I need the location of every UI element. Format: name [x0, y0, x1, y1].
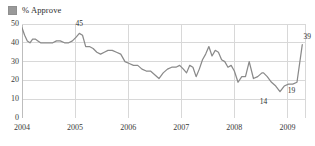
x-tick-2008: 2008	[226, 124, 242, 132]
series-swatch-icon	[8, 6, 17, 15]
y-tick-40: 40	[11, 39, 19, 47]
approval-rating-chart: % Approve 01020304050 200420052006200720…	[0, 0, 315, 146]
point-label-14: 14	[260, 98, 268, 106]
x-tick-2005: 2005	[67, 124, 83, 132]
x-tick-2009: 2009	[279, 124, 295, 132]
y-tick-20: 20	[11, 76, 19, 84]
x-tick-2004: 2004	[14, 124, 30, 132]
point-label-39: 39	[304, 33, 312, 41]
x-tick-2007: 2007	[173, 124, 189, 132]
y-tick-50: 50	[11, 20, 19, 28]
chart-legend: % Approve	[8, 3, 61, 17]
y-tick-0: 0	[15, 114, 19, 122]
point-label-19: 19	[288, 87, 296, 95]
y-tick-30: 30	[11, 58, 19, 66]
legend-label: % Approve	[22, 6, 61, 15]
plot-area: 01020304050 200420052006200720082009 453…	[22, 24, 306, 118]
series-line-approve	[22, 28, 302, 92]
y-tick-10: 10	[11, 95, 19, 103]
x-tick-2006: 2006	[120, 124, 136, 132]
point-label-45: 45	[76, 20, 84, 28]
